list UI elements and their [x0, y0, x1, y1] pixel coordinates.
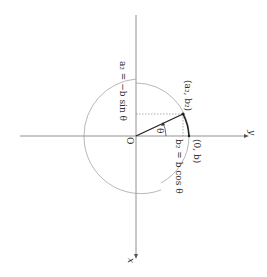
- rotation-diagram: y x O θ (a₂, b₂) (0, b) b₂ = b cos θ a₂ …: [0, 0, 267, 277]
- origin-label: O: [125, 137, 135, 144]
- a2-equation: a₂ = −b sin θ: [118, 61, 128, 121]
- theta-label: θ: [155, 128, 165, 133]
- x-axis-label: x: [126, 258, 136, 263]
- point-a2-b2: [181, 112, 184, 115]
- point-0-b-label: (0, b): [192, 139, 202, 163]
- y-axis-label: y: [247, 129, 257, 136]
- point-a2-b2-label: (a₂, b₂): [183, 80, 193, 111]
- circle-arc: [84, 136, 161, 194]
- b2-equation: b₂ = b cos θ: [174, 139, 184, 194]
- point-0-b: [188, 135, 190, 137]
